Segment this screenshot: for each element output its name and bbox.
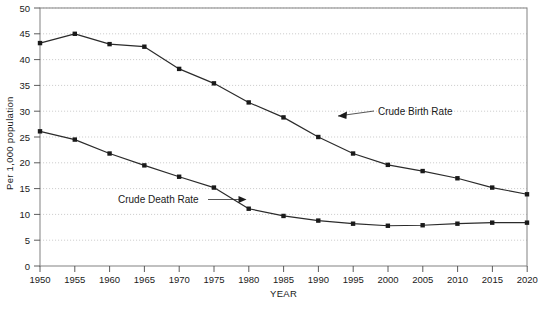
data-point xyxy=(247,100,251,104)
x-tickmarks xyxy=(40,266,527,272)
x-tick-label: 2020 xyxy=(517,274,538,285)
x-tick-label: 1985 xyxy=(273,274,294,285)
data-point xyxy=(455,176,459,180)
data-point xyxy=(490,220,494,224)
x-axis-title: YEAR xyxy=(270,288,297,299)
data-point xyxy=(490,185,494,189)
x-tick-label: 1990 xyxy=(308,274,329,285)
x-tick-label: 1950 xyxy=(29,274,50,285)
x-tick-label: 2015 xyxy=(482,274,503,285)
x-tick-label: 1955 xyxy=(64,274,85,285)
y-tickmarks xyxy=(34,8,40,266)
y-axis-tick-labels: 50 45 40 35 30 25 20 15 10 5 0 xyxy=(19,3,30,272)
data-point xyxy=(351,221,355,225)
x-tick-label: 1965 xyxy=(134,274,155,285)
x-axis-tick-labels: 1950 1955 1960 1965 1970 1975 1980 1985 … xyxy=(29,274,537,285)
x-tick-label: 1975 xyxy=(203,274,224,285)
y-tick-label: 20 xyxy=(19,157,30,168)
data-point xyxy=(142,45,146,49)
annotation-label-birth: Crude Birth Rate xyxy=(378,106,453,117)
y-tick-label: 5 xyxy=(25,235,30,246)
data-point xyxy=(525,220,529,224)
x-tick-label: 1960 xyxy=(99,274,120,285)
y-axis-title: Per 1,000 population xyxy=(4,96,15,190)
data-point xyxy=(212,81,216,85)
data-point xyxy=(386,163,390,167)
y-tick-label: 50 xyxy=(19,3,30,14)
data-point xyxy=(351,151,355,155)
data-point xyxy=(281,115,285,119)
x-tick-label: 2005 xyxy=(412,274,433,285)
data-point xyxy=(107,42,111,46)
y-tick-label: 45 xyxy=(19,28,30,39)
data-point xyxy=(247,207,251,211)
x-tick-label: 2000 xyxy=(377,274,398,285)
data-point xyxy=(73,32,77,36)
y-tick-label: 15 xyxy=(19,183,30,194)
y-tick-label: 30 xyxy=(19,106,30,117)
data-point xyxy=(38,129,42,133)
data-point xyxy=(316,135,320,139)
x-tick-label: 1970 xyxy=(169,274,190,285)
annotation-label-death: Crude Death Rate xyxy=(118,194,199,205)
y-tick-label: 40 xyxy=(19,54,30,65)
x-tick-label: 1980 xyxy=(238,274,259,285)
x-tick-label: 1995 xyxy=(343,274,364,285)
data-point xyxy=(142,163,146,167)
data-point xyxy=(212,185,216,189)
data-point xyxy=(420,169,424,173)
chart-figure: 50 45 40 35 30 25 20 15 10 5 0 Per 1,000… xyxy=(0,0,550,311)
data-point xyxy=(455,221,459,225)
data-point xyxy=(107,151,111,155)
data-point xyxy=(525,192,529,196)
data-point xyxy=(281,214,285,218)
data-point xyxy=(316,218,320,222)
data-point xyxy=(386,224,390,228)
data-point xyxy=(420,223,424,227)
y-tick-label: 0 xyxy=(25,261,30,272)
data-point xyxy=(177,175,181,179)
data-point xyxy=(73,137,77,141)
y-tick-label: 25 xyxy=(19,132,30,143)
x-tick-label: 2010 xyxy=(447,274,468,285)
line-chart: 50 45 40 35 30 25 20 15 10 5 0 Per 1,000… xyxy=(0,0,550,311)
data-point xyxy=(177,67,181,71)
y-tick-label: 10 xyxy=(19,209,30,220)
y-tick-label: 35 xyxy=(19,80,30,91)
data-point xyxy=(38,41,42,45)
